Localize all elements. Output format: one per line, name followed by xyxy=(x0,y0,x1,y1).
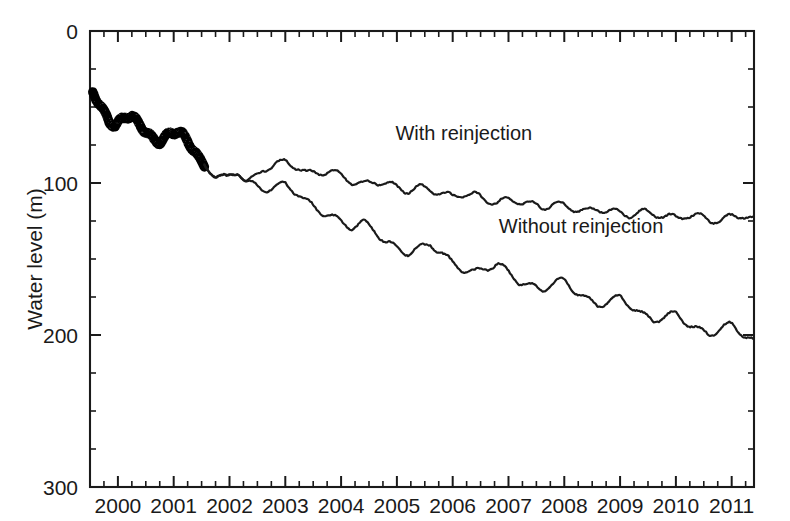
x-tick-label: 2008 xyxy=(541,494,588,517)
series-annotations: With reinjectionWithout reinjection xyxy=(395,122,663,237)
x-tick-label: 2000 xyxy=(95,494,142,517)
axis-ticks xyxy=(90,31,754,487)
y-axis-tick-labels: 0100200300 xyxy=(43,20,78,499)
with-reinjection-label: With reinjection xyxy=(395,122,532,144)
x-tick-label: 2001 xyxy=(150,494,197,517)
water-level-chart: 2000200120022003200420052006200720082009… xyxy=(0,0,790,521)
y-tick-label: 0 xyxy=(66,20,78,43)
without-reinjection-label: Without reinjection xyxy=(499,215,664,237)
x-tick-label: 2010 xyxy=(653,494,700,517)
x-tick-label: 2005 xyxy=(374,494,421,517)
series-line-with-reinjection xyxy=(204,159,752,224)
x-tick-label: 2003 xyxy=(262,494,309,517)
x-tick-label: 2009 xyxy=(597,494,644,517)
y-tick-label: 200 xyxy=(43,324,78,347)
y-tick-label: 300 xyxy=(43,476,78,499)
series-line-observed-measured-water-level xyxy=(93,92,205,167)
series-line-without-reinjection xyxy=(204,164,752,338)
plot-frame xyxy=(90,31,754,487)
x-tick-label: 2002 xyxy=(206,494,253,517)
x-axis-tick-labels: 2000200120022003200420052006200720082009… xyxy=(95,494,755,517)
x-tick-label: 2011 xyxy=(709,494,754,517)
x-tick-label: 2007 xyxy=(485,494,532,517)
x-tick-label: 2004 xyxy=(318,494,365,517)
x-tick-label: 2006 xyxy=(429,494,476,517)
y-axis-title: Water level (m) xyxy=(23,188,46,330)
y-tick-label: 100 xyxy=(43,172,78,195)
